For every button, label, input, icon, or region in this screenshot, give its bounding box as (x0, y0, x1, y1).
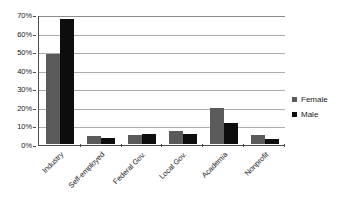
y-axis-tick-label: 50% (17, 49, 32, 57)
bar-group (81, 16, 122, 144)
bar-group (122, 16, 163, 144)
bar-female (87, 136, 101, 144)
x-axis-tick-label: Academia (200, 150, 230, 180)
x-axis-tick-mark (121, 144, 122, 147)
legend-item-female[interactable]: Female (292, 92, 341, 107)
x-axis-tick-mark (202, 144, 203, 147)
x-axis-tick-label: Industry (40, 150, 65, 175)
bar-female (128, 135, 142, 144)
plot-area (38, 16, 285, 146)
bar-group (40, 16, 81, 144)
bar-female (210, 108, 224, 144)
y-axis-tick-mark (33, 53, 36, 54)
x-axis-tick-mark (243, 144, 244, 147)
bar-female (169, 131, 183, 144)
y-axis-tick-mark (33, 72, 36, 73)
y-axis-tick-mark (33, 127, 36, 128)
y-axis: 70%60%50%40%30%20%10%0% (0, 10, 36, 152)
legend-label: Female (301, 95, 328, 104)
x-axis-tick-label: Federal Gov. (111, 150, 147, 186)
y-axis-tick-mark (33, 146, 36, 147)
y-axis-tick-label: 0% (21, 142, 32, 150)
chart-legend: FemaleMale (292, 92, 341, 122)
bar-chart: 70%60%50%40%30%20%10%0% IndustrySelf-emp… (0, 0, 341, 207)
y-axis-tick-label: 20% (17, 105, 32, 113)
bar-male (265, 139, 279, 144)
bar-group (244, 16, 285, 144)
y-axis-tick-label: 30% (17, 86, 32, 94)
y-axis-tick-mark (33, 35, 36, 36)
bar-female (251, 135, 265, 144)
bar-male (101, 138, 115, 144)
y-axis-tick-mark (33, 109, 36, 110)
legend-swatch-icon (292, 112, 297, 117)
x-axis-tick-mark (161, 144, 162, 147)
y-axis-tick-label: 70% (17, 12, 32, 20)
legend-swatch-icon (292, 97, 297, 102)
x-axis-labels: IndustrySelf-employedFederal Gov.Local G… (38, 148, 285, 206)
x-axis-tick-label: Nonprofit (243, 150, 271, 178)
bar-male (183, 134, 197, 144)
bar-female (46, 54, 60, 144)
y-axis-tick-label: 10% (17, 123, 32, 131)
x-axis-tick-label: Self-employed (66, 150, 106, 190)
bar-male (224, 123, 238, 144)
bar-group (203, 16, 244, 144)
x-axis-tick-mark (284, 144, 285, 147)
bar-groups (40, 16, 285, 144)
y-axis-tick-label: 40% (17, 68, 32, 76)
legend-item-male[interactable]: Male (292, 107, 341, 122)
y-axis-tick-mark (33, 90, 36, 91)
bar-male (60, 19, 74, 144)
x-axis-tick-label: Local Gov. (157, 150, 188, 181)
plot-area-wrapper (38, 16, 285, 146)
legend-label: Male (301, 110, 318, 119)
bar-male (142, 134, 156, 144)
x-axis-tick-mark (80, 144, 81, 147)
y-axis-tick-label: 60% (17, 31, 32, 39)
bar-group (162, 16, 203, 144)
y-axis-tick-mark (33, 16, 36, 17)
